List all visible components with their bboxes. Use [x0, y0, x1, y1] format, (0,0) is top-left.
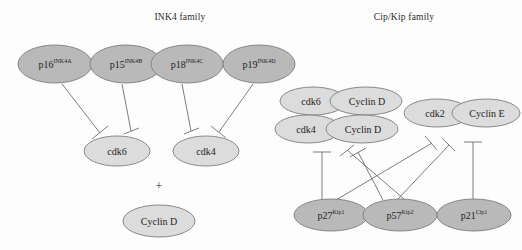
- ink4-edges: [62, 84, 253, 139]
- complex-cdk2-cycline[interactable]: cdk2 Cyclin E: [404, 99, 520, 127]
- complex-cdk6-cyclind[interactable]: cdk6 Cyclin D: [280, 87, 402, 115]
- node-cdk4-left-label: cdk4: [196, 146, 215, 157]
- node-cyclin-d-complex2-label: Cyclin D: [345, 124, 381, 135]
- node-cdk4-complex-label: cdk4: [296, 124, 315, 135]
- node-cyclin-e-complex-label: Cyclin E: [469, 108, 504, 119]
- node-p18[interactable]: p18INK4C: [151, 45, 223, 83]
- edge-p15-cdk6: [122, 84, 139, 134]
- node-p16[interactable]: p16INK4A: [18, 45, 92, 83]
- edge-p18-cdk4: [182, 84, 199, 134]
- edge-p57-cdk2cycline: [397, 138, 455, 200]
- edge-p19-cdk4: [211, 84, 253, 138]
- edge-p27-cdk4cyclind: [313, 152, 331, 200]
- node-cyclin-d-left-label: Cyclin D: [141, 216, 177, 227]
- node-cdk6-complex-label: cdk6: [301, 96, 320, 107]
- diagram-canvas: INK4 family Cip/Kip family: [0, 0, 522, 250]
- node-cdk6-left[interactable]: cdk6: [84, 136, 150, 166]
- ink4-family-title: INK4 family: [154, 12, 205, 22]
- node-cyclin-d-left[interactable]: Cyclin D: [123, 205, 195, 237]
- node-cyclin-d-complex1-label: Cyclin D: [349, 96, 385, 107]
- cipkip-edges: [313, 136, 482, 200]
- cipkip-family-title: Cip/Kip family: [374, 12, 435, 22]
- edge-cross-diagonal: [340, 145, 404, 199]
- edge-p16-cdk6: [62, 84, 108, 139]
- node-p19[interactable]: p19INK4D: [223, 45, 295, 83]
- edge-p57-cdk4cyclind: [350, 148, 383, 200]
- node-p57[interactable]: p57Kip2: [363, 199, 437, 231]
- node-p27[interactable]: p27Kip1: [294, 199, 368, 231]
- complex-cdk4-cyclind[interactable]: cdk4 Cyclin D: [275, 115, 398, 143]
- node-p21[interactable]: p21Cip1: [437, 199, 511, 231]
- node-cdk6-left-label: cdk6: [107, 146, 126, 157]
- edge-p27-cdk2cycline: [336, 136, 437, 200]
- node-cdk4-left[interactable]: cdk4: [173, 136, 239, 166]
- cell-cycle-inhibitor-diagram: INK4 family Cip/Kip family: [0, 0, 522, 250]
- node-cdk2-complex-label: cdk2: [425, 108, 444, 119]
- plus-sign: +: [156, 179, 163, 193]
- edge-p21-cdk2cycline: [464, 142, 482, 200]
